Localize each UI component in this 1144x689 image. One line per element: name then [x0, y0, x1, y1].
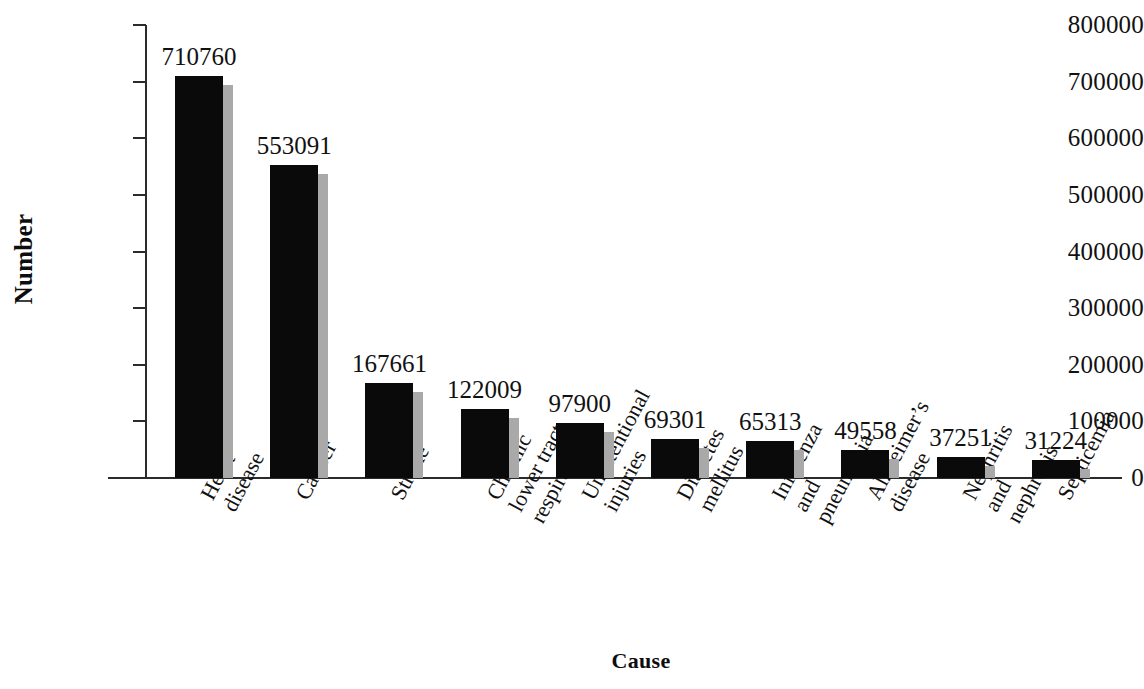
- bar-value-label: 553091: [242, 133, 346, 158]
- y-axis-tick-label: 400000: [1022, 239, 1144, 264]
- bar-side-panel: [889, 459, 899, 478]
- bar-side-panel: [318, 174, 328, 478]
- bar-front-face: [270, 165, 318, 478]
- bar-front-face: [365, 383, 413, 478]
- y-axis-tick: [133, 24, 146, 26]
- y-axis-tick-label: 600000: [1022, 125, 1144, 150]
- y-axis-tick: [133, 420, 146, 422]
- bar-front-face: [841, 450, 889, 478]
- bar-value-label: 37251: [909, 425, 1013, 450]
- bar-side-panel: [509, 418, 519, 478]
- y-axis-tick-label: 800000: [1022, 12, 1144, 37]
- y-axis-tick: [133, 81, 146, 83]
- bar-value-label: 122009: [433, 377, 537, 402]
- y-axis-tick: [133, 251, 146, 253]
- bar: [461, 409, 519, 478]
- bar-front-face: [746, 441, 794, 478]
- y-axis-tick-label: 300000: [1022, 295, 1144, 320]
- bar-side-panel: [604, 432, 614, 478]
- bar: [556, 423, 614, 478]
- bar-side-panel: [985, 466, 995, 478]
- bar-side-panel: [223, 85, 233, 478]
- bar-value-label: 69301: [623, 407, 727, 432]
- bar-value-label: 167661: [337, 351, 441, 376]
- y-axis-tick-label: 200000: [1022, 352, 1144, 377]
- y-axis-tick: [133, 137, 146, 139]
- x-axis-title: Cause: [594, 648, 688, 674]
- bar-front-face: [651, 439, 699, 478]
- bar-side-panel: [794, 450, 804, 478]
- bar-front-face: [1032, 460, 1080, 478]
- y-axis-tick: [133, 364, 146, 366]
- bar: [270, 165, 328, 478]
- bar-side-panel: [413, 392, 423, 478]
- y-axis-tick: [133, 477, 146, 479]
- y-axis-tick-label: 500000: [1022, 182, 1144, 207]
- y-axis-tick: [133, 307, 146, 309]
- y-axis-title: Number: [10, 213, 38, 305]
- bar-value-label: 97900: [528, 391, 632, 416]
- y-axis-tick-label: 700000: [1022, 69, 1144, 94]
- y-axis-tick: [133, 194, 146, 196]
- bar-front-face: [556, 423, 604, 478]
- bar: [365, 383, 423, 478]
- bar: [175, 76, 233, 478]
- bar-side-panel: [1080, 469, 1090, 478]
- bar-value-label: 65313: [718, 409, 822, 434]
- bar-value-label: 49558: [813, 418, 917, 443]
- bar-front-face: [937, 457, 985, 478]
- bar-value-label: 710760: [147, 44, 251, 69]
- bar-front-face: [461, 409, 509, 478]
- bar-chart: 8000007000006000005000004000003000002000…: [0, 0, 1144, 689]
- bar-value-label: 31224: [1004, 428, 1108, 453]
- bar-side-panel: [699, 448, 709, 478]
- bar-front-face: [175, 76, 223, 478]
